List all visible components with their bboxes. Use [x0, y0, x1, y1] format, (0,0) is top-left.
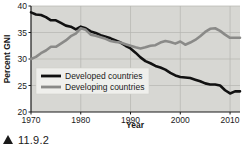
y-tick-label: 40 — [18, 1, 28, 11]
figure-container: 2025303540 19701980199020002010 Percent … — [0, 0, 250, 150]
y-tick-label: 35 — [18, 28, 28, 38]
line-chart: 2025303540 19701980199020002010 Percent … — [0, 0, 250, 130]
x-axis-title: Year — [126, 120, 145, 130]
figure-caption: 11.9.2 — [3, 131, 49, 148]
chart-area: 2025303540 19701980199020002010 Percent … — [0, 0, 250, 130]
chart-legend[interactable]: Developed countriesDeveloping countries — [36, 68, 149, 94]
figure-number: 11.9.2 — [18, 134, 49, 146]
y-axis-title: Percent GNI — [2, 35, 12, 84]
y-tick-label: 30 — [18, 54, 28, 64]
x-tick-label: 2010 — [221, 115, 240, 125]
x-tick-label: 2000 — [171, 115, 190, 125]
legend-label: Developed countries — [65, 71, 143, 81]
legend-label: Developing countries — [65, 82, 144, 92]
triangle-marker-icon — [3, 135, 13, 144]
y-axis-tick-labels: 2025303540 — [18, 1, 28, 117]
y-tick-label: 25 — [18, 81, 28, 91]
x-tick-label: 1970 — [22, 115, 41, 125]
x-tick-label: 1980 — [71, 115, 90, 125]
